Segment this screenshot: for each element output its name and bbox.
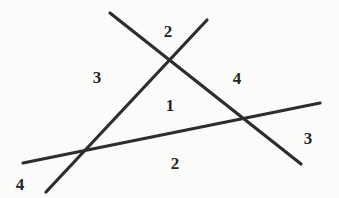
label-bottom-left: 4 [16,176,25,193]
line-upper-right-to-lower-left [46,20,207,192]
line-upper-left-to-lower-right [110,13,301,164]
label-bottom: 2 [171,155,180,172]
label-left: 3 [93,69,102,86]
diagram-canvas: 2341234 [0,0,339,198]
label-center: 1 [166,97,175,114]
label-top: 2 [164,23,173,40]
label-right: 4 [233,70,242,87]
label-right-outer: 3 [304,130,313,147]
